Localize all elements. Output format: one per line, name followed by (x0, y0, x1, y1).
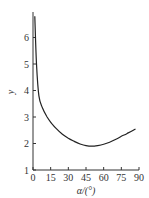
chart: 123456 0153045607590 y α/(°) (0, 0, 149, 198)
data-line (35, 16, 136, 146)
y-tick-label: 2 (24, 138, 29, 149)
x-tick-label: 15 (46, 172, 56, 183)
x-tick-label: 60 (99, 172, 109, 183)
x-tick-label: 0 (31, 172, 36, 183)
x-tick-label: 90 (134, 172, 144, 183)
x-tick-label: 45 (81, 172, 91, 183)
x-tick-label: 75 (116, 172, 126, 183)
x-ticks: 0153045607590 (31, 167, 145, 183)
x-axis-label: α/(°) (77, 185, 96, 197)
y-ticks: 123456 (24, 32, 36, 176)
y-axis-label: y (5, 89, 16, 95)
y-tick-label: 4 (24, 85, 29, 96)
y-tick-label: 1 (24, 165, 29, 176)
y-tick-label: 6 (24, 32, 29, 43)
y-tick-label: 3 (24, 112, 29, 123)
x-tick-label: 30 (63, 172, 73, 183)
y-tick-label: 5 (24, 59, 29, 70)
